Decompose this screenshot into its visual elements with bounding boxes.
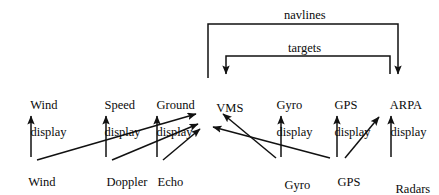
node-gps-receiver[interactable]: GPS receiver [325,163,378,195]
edge-label-targets: targets [288,42,321,55]
node-wind-display-line2: display [31,125,67,139]
node-gyro-display-line2: display [277,125,313,139]
node-speed-display-line2: display [105,125,141,139]
node-gps-display-line2: display [335,125,371,139]
node-gyro-line1: Gyro [285,178,311,192]
node-speed-display-line1: Speed [105,98,136,112]
edge-label-navlines: navlines [284,9,326,22]
node-radars-line1: Radars [396,182,431,195]
node-gyro[interactable]: Gyro [272,166,310,195]
node-wind-display[interactable]: Wind display [18,86,67,152]
node-ground-display[interactable]: Ground display [144,86,195,152]
edge-arpa-to-vms-targets [226,56,390,74]
node-gps-receiver-line1: GPS [338,175,361,189]
node-vms[interactable]: VMS [204,89,243,129]
node-gyro-display[interactable]: Gyro display [264,86,313,152]
node-echo-sounder-line1: Echo [158,175,184,189]
node-wind-display-line1: Wind [30,98,57,112]
node-vms-line1: VMS [216,101,243,115]
node-ground-display-line1: Ground [157,98,195,112]
node-speed-display[interactable]: Speed display [92,86,141,152]
node-gyro-display-line1: Gyro [277,98,303,112]
node-wind-measurement[interactable]: Wind measurement [16,163,95,195]
node-doppler-log-line1: Doppler [107,175,148,189]
node-arpa-display[interactable]: ARPA display [378,86,427,152]
node-gps-display[interactable]: GPS display [322,86,371,152]
node-arpa-display-line1: ARPA [390,98,422,112]
node-doppler-log[interactable]: Doppler log [94,163,147,195]
node-echo-sounder[interactable]: Echo sounder [145,163,197,195]
node-radars[interactable]: Radars [383,170,430,195]
node-arpa-display-line2: display [391,125,427,139]
node-wind-measurement-line1: Wind [28,175,55,189]
node-gps-display-line1: GPS [335,98,358,112]
navigation-system-diagram: Wind display Speed display Ground displa… [0,0,439,195]
node-ground-display-line2: display [157,125,193,139]
